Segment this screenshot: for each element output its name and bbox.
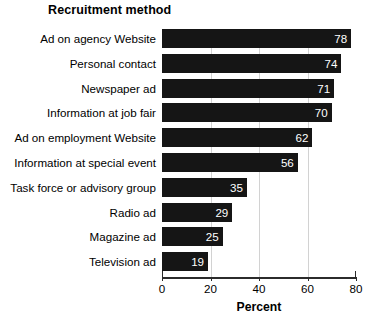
x-tick-label: 60 [301,282,314,296]
bar: 74 [162,54,341,73]
bar-value-label: 78 [334,29,347,48]
x-tick-mark [356,277,357,281]
category-label: Magazine ad [90,227,156,246]
category-label: Ad on agency Website [40,29,156,48]
bar-value-label: 35 [230,178,243,197]
bar: 56 [162,153,298,172]
category-label: Task force or advisory group [10,178,156,197]
bar-value-label: 56 [281,153,294,172]
category-label: Personal contact [70,54,156,73]
bar-row: Ad on agency Website78 [0,29,383,48]
x-tick-label: 20 [204,282,217,296]
bar: 70 [162,103,332,122]
bar: 71 [162,79,334,98]
bar: 62 [162,128,312,147]
bar-row: Task force or advisory group35 [0,178,383,197]
x-tick-mark [259,277,260,281]
x-tick-mark [308,277,309,281]
bar: 29 [162,203,232,222]
bar-row: Information at job fair70 [0,103,383,122]
category-label: Ad on employment Website [14,128,156,147]
bar-row: Information at special event56 [0,153,383,172]
x-tick-mark [162,277,163,281]
bar: 78 [162,29,351,48]
x-tick-label: 0 [159,282,165,296]
x-tick-label: 40 [253,282,266,296]
bar-row: Radio ad29 [0,203,383,222]
bar-value-label: 70 [315,103,328,122]
x-axis-title: Percent [237,300,282,314]
bar: 25 [162,227,223,246]
category-label: Information at special event [14,153,156,172]
x-tick-label: 80 [350,282,363,296]
category-label: Newspaper ad [81,79,156,98]
bar-row: Ad on employment Website62 [0,128,383,147]
bar-chart: Recruitment method Ad on agency Website7… [0,0,383,323]
bar: 19 [162,252,208,271]
category-label: Radio ad [110,203,156,222]
category-label: Information at job fair [47,103,156,122]
bar-row: Personal contact74 [0,54,383,73]
bar-value-label: 29 [215,203,228,222]
chart-title: Recruitment method [48,3,171,18]
bar-value-label: 62 [295,128,308,147]
bar-value-label: 25 [206,227,219,246]
x-tick-mark [211,277,212,281]
bar-row: Magazine ad25 [0,227,383,246]
bar-value-label: 19 [191,252,204,271]
bar-row: Television ad19 [0,252,383,271]
bar-row: Newspaper ad71 [0,79,383,98]
bar-value-label: 74 [325,54,338,73]
bar: 35 [162,178,247,197]
bar-value-label: 71 [317,79,330,98]
category-label: Television ad [89,252,156,271]
